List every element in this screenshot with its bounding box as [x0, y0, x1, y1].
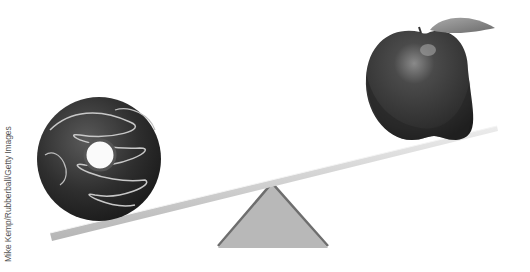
seesaw-illustration: [0, 0, 530, 272]
photo-credit: Mike Kemp/Rubberball/Getty Images: [3, 126, 13, 262]
apple: [366, 18, 495, 140]
donut: [37, 97, 161, 221]
